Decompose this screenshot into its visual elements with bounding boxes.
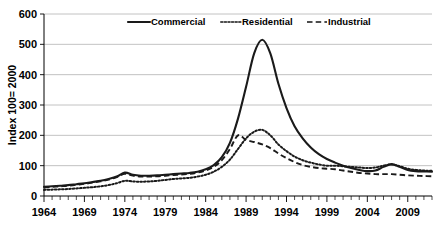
chart-legend: CommercialResidentialIndustrial <box>128 16 371 27</box>
x-tick-label: 1984 <box>193 206 218 218</box>
x-tick-label: 1989 <box>234 206 258 218</box>
y-tick-label: 100 <box>19 160 37 172</box>
y-tick-label: 300 <box>19 99 37 111</box>
x-tick-label: 1979 <box>153 206 177 218</box>
x-tick-label: 1969 <box>72 206 96 218</box>
gridlines-group <box>44 14 432 166</box>
legend-label-residential: Residential <box>242 16 293 27</box>
x-tick-label: 1974 <box>113 206 138 218</box>
legend-label-industrial: Industrial <box>328 16 371 27</box>
data-series-group <box>44 40 432 190</box>
line-chart: 0100200300400500600 19641969197419791984… <box>0 0 438 243</box>
y-tick-label: 200 <box>19 129 37 141</box>
x-minor-tick-marks-group <box>44 196 432 202</box>
x-tick-label: 1964 <box>32 206 57 218</box>
y-tick-label: 0 <box>31 190 37 202</box>
y-tick-marks-group <box>40 14 44 196</box>
y-tick-label: 400 <box>19 69 37 81</box>
x-axis-tick-labels: 1964196919741979198419891994199920042009 <box>32 206 420 218</box>
legend-label-commercial: Commercial <box>151 16 205 27</box>
x-tick-label: 2004 <box>355 206 380 218</box>
chart-container: 0100200300400500600 19641969197419791984… <box>0 0 438 243</box>
x-tick-label: 2009 <box>396 206 420 218</box>
y-tick-label: 600 <box>19 8 37 20</box>
x-tick-label: 1999 <box>315 206 339 218</box>
x-tick-label: 1994 <box>274 206 299 218</box>
y-tick-label: 500 <box>19 38 37 50</box>
series-line-commercial <box>44 40 432 187</box>
y-axis-title: Index 100= 2000 <box>6 65 18 145</box>
y-axis-tick-labels: 0100200300400500600 <box>19 8 37 202</box>
